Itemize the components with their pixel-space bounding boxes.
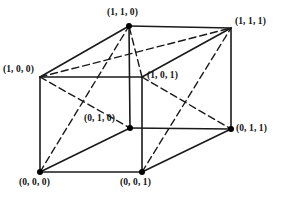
vertex-label-0-0-0: (0, 0, 0) [19,178,50,188]
vertex-dot-1-1-0 [126,23,132,29]
edge-depth-top-left [40,26,129,77]
vertex-dot-0-0-0 [37,169,43,175]
vertex-label-1-1-0: (1, 1, 0) [107,8,138,18]
vertex-dots-group [37,23,234,175]
edge-back-left [129,26,130,128]
vertex-label-0-0-1: (0, 0, 1) [120,178,151,188]
cube-wireframe-svg [0,0,284,206]
vertex-label-0-1-0: (0, 1, 0) [84,114,115,124]
edge-back-bottom [130,128,231,129]
vertex-dot-0-1-1 [228,126,234,132]
vertex-label-0-1-1: (0, 1, 1) [236,124,267,134]
diagonal-right-face-a [142,77,231,129]
edge-back-top [129,26,231,28]
solid-edges-group [40,26,231,172]
vertex-label-1-0-0: (1, 0, 0) [3,65,34,75]
vertex-dot-0-0-1 [139,169,145,175]
vertex-dot-0-1-0 [127,125,133,131]
cube-diagram-figure: (1, 0, 0)(0, 0, 0)(1, 0, 1)(0, 0, 1)(1, … [0,0,284,206]
vertex-label-1-0-1: (1, 0, 1) [147,71,178,81]
dashed-diagonals-group [40,26,231,172]
vertex-label-1-1-1: (1, 1, 1) [235,17,266,27]
